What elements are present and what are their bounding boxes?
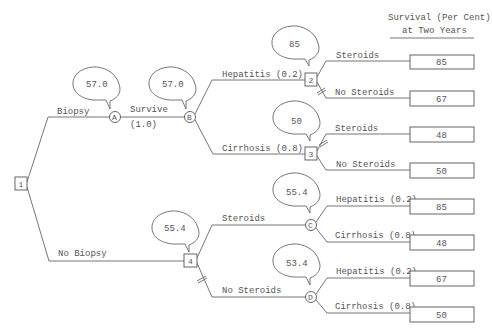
- branch-n2-steroids: [317, 61, 410, 77]
- chance-node-c: C: [306, 220, 317, 231]
- svg-text:48: 48: [436, 131, 447, 141]
- branch-label-b-hepatitis: Hepatitis (0.2): [222, 70, 303, 80]
- outcome-box-d-hepatitis: 67: [410, 271, 474, 286]
- svg-text:A: A: [112, 113, 117, 122]
- svg-text:50: 50: [436, 311, 447, 321]
- bubble-node-3: 50: [273, 101, 320, 141]
- outcome-box-c-cirrhosis: 48: [410, 235, 474, 250]
- svg-text:55.4: 55.4: [164, 224, 186, 234]
- survival-header-line1: Survival (Per Cent): [388, 13, 491, 23]
- branch-d-hepatitis: [316, 278, 410, 294]
- survival-header-line2: at Two Years: [402, 26, 467, 36]
- svg-text:4: 4: [188, 257, 193, 266]
- svg-text:D: D: [308, 293, 313, 302]
- svg-text:1: 1: [19, 180, 24, 189]
- outcome-box-cir-no-steroids: 50: [410, 163, 474, 178]
- branch-label-n3-steroids: Steroids: [335, 124, 378, 134]
- svg-text:2: 2: [309, 76, 314, 85]
- svg-text:3: 3: [309, 150, 314, 159]
- branch-label-survive: Survive: [130, 105, 168, 115]
- branch-label-n4-steroids: Steroids: [222, 214, 265, 224]
- outcome-box-cir-steroids: 48: [410, 127, 474, 142]
- bubble-c: 55.4: [273, 173, 320, 213]
- branch-label-d-cirrhosis: Cirrhosis (0.8): [335, 302, 416, 312]
- branch-label-n3-no-steroids: No Steroids: [336, 160, 395, 170]
- decision-tree: Survival (Per Cent) at Two Years Biopsy …: [0, 0, 492, 333]
- svg-text:B: B: [187, 113, 192, 122]
- outcome-box-hep-no-steroids: 67: [410, 91, 474, 106]
- svg-text:67: 67: [436, 95, 447, 105]
- chance-node-a: A: [110, 112, 121, 123]
- blocked-branch-mark: [319, 140, 327, 145]
- decision-node-2: 2: [305, 73, 317, 86]
- outcome-box-hep-steroids: 85: [410, 55, 474, 69]
- branch-label-d-hepatitis: Hepatitis (0.2): [336, 267, 417, 277]
- bubble-node-4: 55.4: [152, 211, 199, 252]
- branch-label-c-cirrhosis: Cirrhosis (0.8): [335, 231, 416, 241]
- branch-label-no-biopsy: No Biopsy: [58, 249, 107, 259]
- svg-text:67: 67: [436, 275, 447, 285]
- svg-text:48: 48: [436, 239, 447, 249]
- bubble-b: 57.0: [149, 67, 196, 109]
- svg-text:85: 85: [436, 58, 447, 68]
- branch-biopsy: Biopsy: [27, 107, 110, 182]
- outcome-box-d-cirrhosis: 50: [410, 307, 474, 322]
- svg-text:57.0: 57.0: [162, 80, 184, 90]
- bubble-node-2: 85: [272, 26, 319, 66]
- branch-label-biopsy: Biopsy: [57, 107, 90, 117]
- decision-node-3: 3: [305, 147, 317, 160]
- svg-text:50: 50: [291, 117, 302, 127]
- branch-prob-survive: (1.0): [130, 120, 157, 130]
- branch-label-c-hepatitis: Hepatitis (0.2): [336, 195, 417, 205]
- branch-label-n4-no-steroids: No Steroids: [222, 286, 281, 296]
- bubble-a: 57.0: [73, 67, 120, 109]
- svg-text:C: C: [308, 221, 313, 230]
- branch-label-b-cirrhosis: Cirrhosis (0.8): [222, 144, 303, 154]
- svg-text:85: 85: [289, 40, 300, 50]
- decision-node-4: 4: [184, 254, 197, 267]
- bubble-d: 53.4: [273, 244, 320, 285]
- branch-n3-steroids: [317, 134, 410, 151]
- decision-node-1: 1: [15, 177, 27, 190]
- chance-node-d: D: [306, 292, 317, 303]
- branch-label-n2-no-steroids: No Steroids: [335, 88, 394, 98]
- branch-c-hepatitis: [316, 206, 410, 222]
- branch-label-n2-steroids: Steroids: [336, 51, 379, 61]
- svg-text:53.4: 53.4: [286, 259, 308, 269]
- svg-text:85: 85: [436, 203, 447, 213]
- svg-text:50: 50: [436, 167, 447, 177]
- outcome-box-c-hepatitis: 85: [410, 199, 474, 214]
- chance-node-b: B: [185, 112, 196, 123]
- svg-text:57.0: 57.0: [86, 80, 108, 90]
- svg-text:55.4: 55.4: [286, 188, 308, 198]
